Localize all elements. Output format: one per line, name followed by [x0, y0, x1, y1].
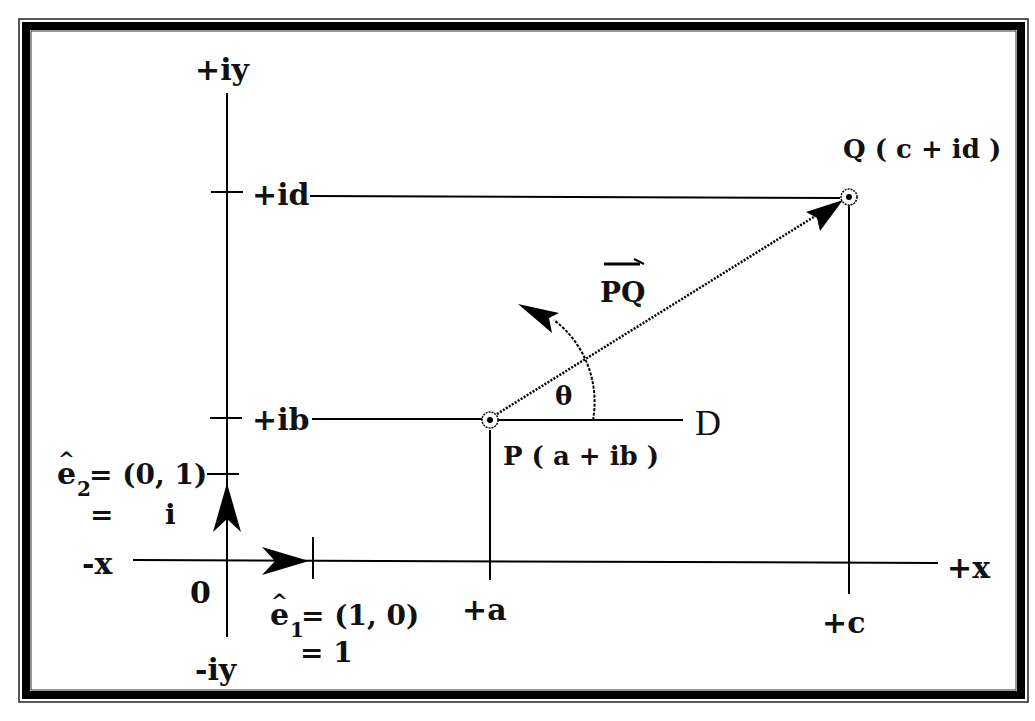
e2-equation: = (0, 1) — [89, 458, 207, 491]
neg-x-axis-label: -x — [82, 546, 113, 581]
e2-base: e — [57, 456, 76, 491]
reference-line-d-label: D — [695, 403, 721, 443]
pos-x-axis-label: +x — [947, 550, 991, 585]
frame-border — [19, 19, 1028, 702]
vector-pq-arrowhead — [806, 200, 843, 231]
x-axis — [133, 560, 938, 563]
unit-vector-e2-label: ^ e 2 = (0, 1) = i — [57, 447, 207, 531]
e2-value-equals: = — [90, 498, 113, 531]
point-q — [841, 189, 857, 205]
e2-value: i — [165, 498, 176, 531]
tick-label-ib: +ib — [252, 402, 310, 437]
angle-theta-label: θ — [555, 381, 572, 411]
e1-value: = 1 — [300, 636, 353, 669]
complex-plane-diagram: +iy -iy +x -x 0 +id +ib +a +c Q ( c + id… — [0, 0, 1035, 721]
point-p-label: P ( a + ib ) — [503, 441, 659, 471]
tick-label-c: +c — [822, 605, 865, 640]
origin-label: 0 — [190, 575, 211, 610]
neg-y-axis-label: -iy — [195, 652, 238, 687]
e1-base: e — [270, 597, 289, 632]
unit-vector-e1-label: ^ e 1 = (1, 0) = 1 — [270, 589, 419, 669]
e1-equation: = (1, 0) — [301, 599, 419, 632]
pos-y-axis-label: +iy — [195, 52, 251, 87]
tick-label-id: +id — [252, 177, 310, 212]
tick-label-a: +a — [462, 592, 507, 627]
point-p — [482, 412, 498, 428]
vector-pq-label: PQ — [600, 276, 645, 309]
angle-arc-arrowhead — [518, 304, 559, 333]
point-q-label: Q ( c + id ) — [843, 134, 1001, 164]
guide-line-id — [310, 196, 840, 198]
